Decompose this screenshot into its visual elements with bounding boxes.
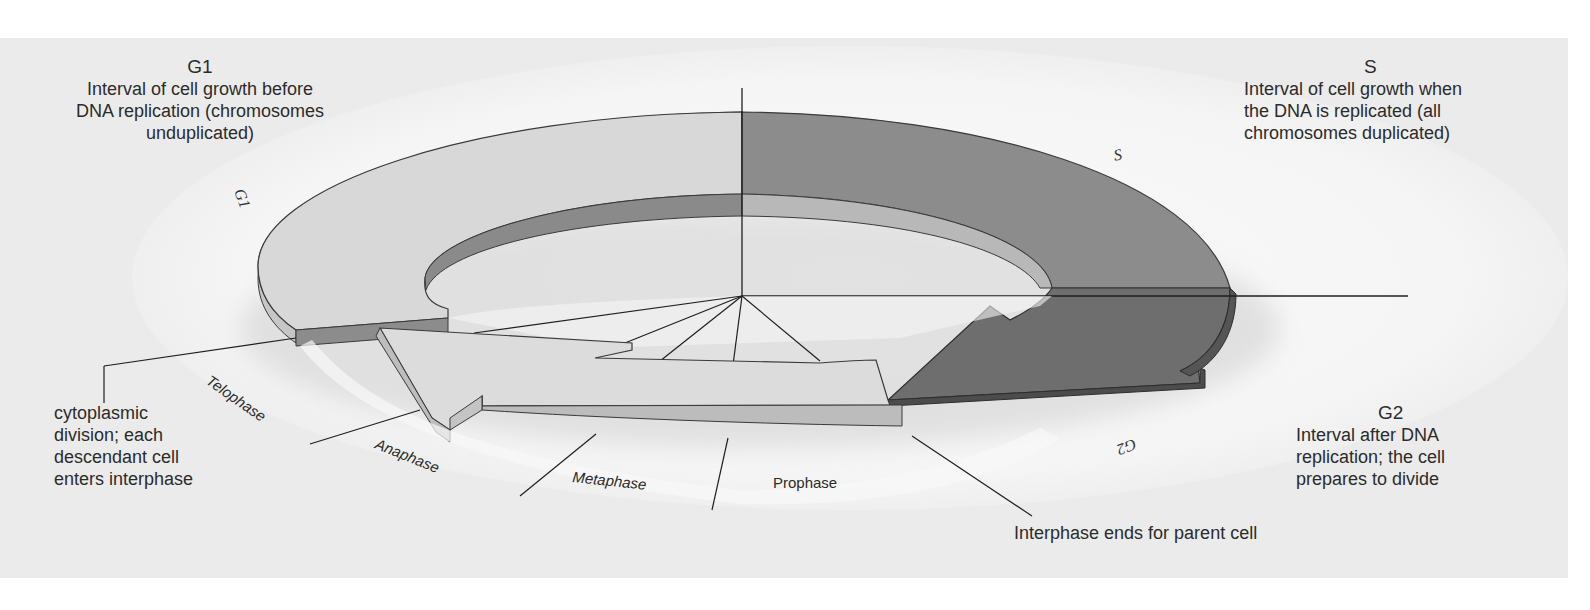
g2-desc-line-1: Interval after DNA	[1296, 424, 1516, 446]
s-desc-line-1: Interval of cell growth when	[1244, 78, 1544, 100]
g1-desc-line-2: DNA replication (chromosomes	[30, 100, 370, 122]
cytokinesis-line-4: enters interphase	[54, 468, 254, 490]
g1-annotation: G1 Interval of cell growth before DNA re…	[30, 56, 370, 144]
g1-heading: G1	[30, 56, 370, 78]
cytokinesis-line-2: division; each	[54, 424, 254, 446]
cytokinesis-line-1: cytoplasmic	[54, 402, 254, 424]
interphase-end-annotation: Interphase ends for parent cell	[1014, 522, 1314, 544]
diagram-panel: G1 S G2 Telophase Anaphase Metaphase Pro…	[0, 38, 1568, 578]
g2-desc-line-3: prepares to divide	[1296, 468, 1516, 490]
s-desc-line-2: the DNA is replicated (all	[1244, 100, 1544, 122]
s-heading: S	[1244, 56, 1544, 78]
g1-desc-line-1: Interval of cell growth before	[30, 78, 370, 100]
g1-desc-line-3: unduplicated)	[30, 122, 370, 144]
g2-desc-line-2: replication; the cell	[1296, 446, 1516, 468]
g2-heading: G2	[1296, 402, 1516, 424]
cytokinesis-annotation: cytoplasmic division; each descendant ce…	[54, 402, 254, 490]
phase-label-prophase: Prophase	[773, 474, 837, 491]
cytokinesis-line-3: descendant cell	[54, 446, 254, 468]
s-desc-line-3: chromosomes duplicated)	[1244, 122, 1544, 144]
g2-annotation: G2 Interval after DNA replication; the c…	[1296, 402, 1516, 490]
s-annotation: S Interval of cell growth when the DNA i…	[1244, 56, 1544, 144]
